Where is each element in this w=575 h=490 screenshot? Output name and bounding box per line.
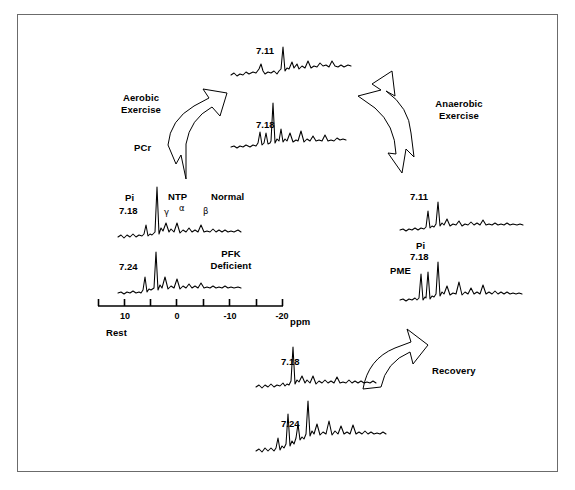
- label-recovery: Recovery: [432, 365, 476, 377]
- ppm-axis: [98, 299, 283, 306]
- label-aerobic-exercise: Aerobic Exercise: [110, 92, 172, 115]
- label-pi-right: Pi: [416, 240, 425, 252]
- label-pfk-deficient: PFK Deficient: [204, 248, 258, 271]
- label-beta: β: [203, 206, 208, 216]
- ppm-value-recovery-normal: 7.18: [281, 356, 300, 367]
- ppm-value-anaerobic-normal: 7.11: [410, 191, 428, 202]
- axis-tick-minus20: -20: [270, 311, 294, 321]
- figure-border: Aerobic Exercise Anaerobic Exercise Reco…: [17, 14, 558, 472]
- label-anaerobic-exercise: Anaerobic Exercise: [420, 98, 498, 121]
- spectrum-aerobic-pfk: [231, 103, 346, 148]
- spectrum-aerobic-normal: [231, 47, 351, 76]
- aerobic-exercise-arrow: [168, 89, 227, 179]
- anaerobic-exercise-arrow: [358, 71, 414, 173]
- label-normal: Normal: [211, 191, 244, 203]
- label-pi-left: Pi: [125, 192, 134, 204]
- axis-tick-0: 0: [170, 311, 184, 321]
- ppm-value-rest-normal: 7.18: [119, 205, 138, 216]
- axis-tick-minus10: -10: [218, 311, 242, 321]
- spectrum-anaerobic-normal: [400, 202, 523, 231]
- label-pcr: PCr: [134, 142, 151, 154]
- ppm-value-aerobic-pfk: 7.18: [256, 119, 275, 130]
- spectrum-recovery-pfk: [256, 401, 386, 452]
- label-alpha: α: [179, 203, 185, 213]
- figure-graphics: [18, 15, 559, 473]
- label-gamma: γ: [164, 207, 169, 217]
- ppm-value-recovery-pfk: 7.24: [281, 418, 300, 429]
- label-ntp: NTP: [168, 191, 187, 203]
- axis-tick-10: 10: [117, 311, 133, 321]
- label-pme: PME: [390, 265, 411, 277]
- label-rest: Rest: [106, 327, 127, 339]
- ppm-value-rest-pfk: 7.24: [119, 261, 138, 272]
- spectrum-anaerobic-pfk: [400, 262, 522, 301]
- ppm-value-anaerobic-pfk: 7.18: [410, 251, 429, 262]
- ppm-value-aerobic-normal: 7.11: [256, 45, 274, 56]
- spectrum-recovery-normal: [256, 347, 376, 388]
- recovery-arrow: [363, 329, 428, 389]
